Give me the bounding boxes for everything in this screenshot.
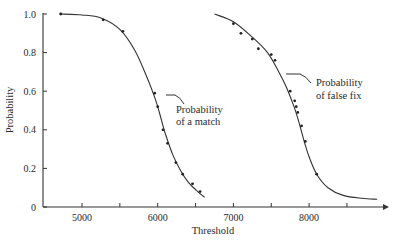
data-point — [295, 105, 298, 108]
data-point — [232, 22, 235, 25]
false-fix-annotation-line2: of false fix — [316, 90, 362, 101]
y-axis-title: Probability — [4, 86, 15, 133]
data-point — [240, 32, 243, 35]
data-point — [296, 111, 299, 114]
y-tick-label: 1.0 — [24, 9, 37, 20]
data-point — [293, 99, 296, 102]
match-leader-line — [166, 95, 184, 104]
x-tick-label: 5000 — [72, 212, 92, 223]
data-point — [251, 38, 254, 41]
data-point — [304, 140, 307, 143]
data-point — [315, 173, 318, 176]
data-point — [174, 161, 177, 164]
x-axis-ticks: 5000600070008000 — [72, 203, 347, 223]
x-tick-label: 7000 — [223, 212, 243, 223]
data-point — [257, 47, 260, 50]
x-axis-arrow-icon — [383, 204, 389, 210]
data-point — [121, 30, 124, 33]
x-tick-label: 8000 — [299, 212, 319, 223]
chart: 00.20.40.60.81.0 5000600070008000 Probab… — [0, 0, 394, 243]
y-tick-label: 0.8 — [24, 47, 37, 58]
data-point — [289, 90, 292, 93]
y-tick-label: 0 — [31, 202, 36, 213]
false-fix-curve-group — [215, 14, 378, 199]
match-annotation-line1: Probability — [176, 104, 223, 115]
data-point — [274, 59, 277, 62]
y-tick-label: 0.2 — [24, 163, 37, 174]
data-point — [166, 142, 169, 145]
data-point — [102, 18, 105, 21]
data-point — [270, 53, 273, 56]
data-point — [162, 128, 165, 131]
y-tick-label: 0.6 — [24, 86, 37, 97]
match-annotation-line2: of a match — [176, 116, 221, 127]
annotations: Probabilityof a matchProbabilityof false… — [166, 74, 363, 127]
data-point — [181, 173, 184, 176]
data-point — [199, 190, 202, 193]
data-point — [59, 13, 62, 16]
false-fix-annotation-line1: Probability — [316, 77, 363, 88]
false-fix-leader-line — [286, 74, 311, 83]
data-point — [191, 182, 194, 185]
y-tick-label: 0.4 — [24, 124, 37, 135]
data-point — [300, 125, 303, 128]
data-point — [156, 105, 159, 108]
x-axis-title: Threshold — [192, 225, 235, 236]
x-tick-label: 6000 — [148, 212, 168, 223]
data-point — [153, 92, 156, 95]
